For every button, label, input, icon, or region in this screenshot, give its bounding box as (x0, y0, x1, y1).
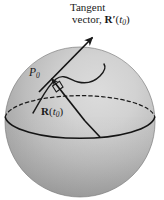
diagram-canvas (0, 0, 164, 200)
tangent-vector-label: Tangent vector, R′(t0) (70, 2, 130, 27)
position-vector-label: R(t0) (41, 106, 63, 119)
tangent-label-line1: Tangent (70, 1, 105, 13)
sphere (0, 47, 164, 200)
point-p0-label: P0 (29, 66, 40, 80)
tangent-label-line2: vector, R′(t0) (70, 14, 130, 27)
figure-container: Tangent vector, R′(t0) P0 R(t0) (0, 0, 164, 200)
vector-R-symbol: R (41, 105, 49, 117)
vector-R-symbol: R (105, 13, 113, 25)
